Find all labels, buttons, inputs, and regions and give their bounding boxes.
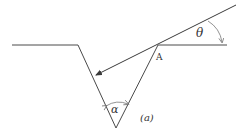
figure-tag-label: (a): [140, 112, 154, 123]
incident-ray-arrow: [96, 5, 236, 75]
alpha-label: α: [111, 103, 119, 116]
theta-angle-arc: [208, 21, 222, 42]
v-groove-diagram: θ A α (a): [0, 0, 246, 138]
point-a-label: A: [155, 52, 163, 62]
surface-profile: [12, 45, 227, 128]
theta-label: θ: [196, 26, 204, 40]
